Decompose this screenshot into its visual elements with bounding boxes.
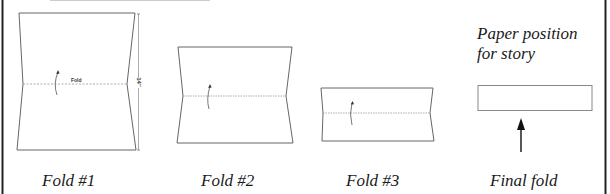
fold1-fold-text: Fold: [71, 77, 82, 83]
fold3-curved-arrow-icon: [351, 103, 353, 125]
fold2-curved-arrow-icon: [208, 86, 210, 109]
fold2-label: Fold #2: [201, 172, 254, 189]
fold1-curved-arrow-icon: [55, 72, 58, 95]
final-paper-rect: [478, 86, 592, 111]
fold3-paper: [321, 88, 434, 141]
final-arrow-head-icon: [517, 118, 525, 130]
folding-diagram: Fold 14" Paper position for story Fold #…: [0, 0, 610, 194]
final-caption: Paper position for story: [477, 24, 578, 64]
fold1-dimension-label: 14": [136, 77, 142, 87]
final-caption-line1: Paper position: [477, 24, 578, 44]
fold1-label: Fold #1: [42, 172, 95, 189]
fold2-paper: [177, 47, 293, 143]
final-fold-label: Final fold: [490, 172, 558, 189]
final-caption-line2: for story: [477, 44, 578, 64]
fold3-label: Fold #3: [346, 172, 399, 189]
final-paper: [478, 86, 592, 153]
